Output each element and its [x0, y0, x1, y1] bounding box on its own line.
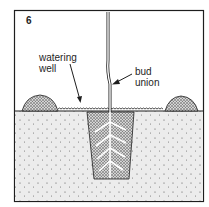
- diagram-illustration: [0, 0, 209, 207]
- bud-union-label-line1: bud: [135, 66, 159, 77]
- bud-union-label: bud union: [135, 66, 159, 88]
- step-number: 6: [26, 15, 32, 26]
- watering-well-label-line2: well: [39, 63, 77, 74]
- planting-diagram: 6 watering well bud union: [0, 0, 209, 207]
- watering-well-label-line1: watering: [39, 52, 77, 63]
- watering-well-label: watering well: [39, 52, 77, 74]
- bud-union-label-line2: union: [135, 77, 159, 88]
